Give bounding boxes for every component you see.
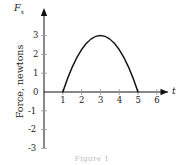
y-tick-label: 1	[33, 69, 38, 78]
y-axis-symbol: Fx	[14, 3, 24, 15]
x-axis-symbol: t	[172, 86, 176, 96]
y-axis-symbol-letter: F	[14, 2, 21, 13]
y-tick-label: -2	[28, 125, 36, 134]
y-tick-label: 3	[33, 31, 38, 40]
x-axis-arrow-icon	[161, 89, 169, 95]
y-tick-label: 0	[33, 88, 38, 97]
force-curve	[63, 36, 138, 92]
force-time-figure: Force, newtons Fx t 1 2 3 4 5 6 3 2 1 0 …	[0, 0, 184, 165]
y-tick-label: -3	[28, 144, 36, 153]
x-tick-label: 3	[98, 96, 103, 105]
x-tick-label: 2	[79, 96, 84, 105]
y-axis-title: Force, newtons	[14, 27, 25, 137]
figure-caption: Figure 1	[0, 155, 184, 165]
x-tick-label: 5	[136, 96, 141, 105]
y-axis-arrow-icon	[41, 8, 47, 16]
force-time-plot	[0, 0, 184, 165]
y-tick-label: 2	[33, 50, 38, 59]
x-tick-label: 1	[60, 96, 65, 105]
y-axis-symbol-subscript: x	[21, 8, 25, 16]
x-tick-label: 6	[154, 96, 159, 105]
y-tick-label: -1	[28, 107, 36, 116]
x-tick-label: 4	[117, 96, 122, 105]
